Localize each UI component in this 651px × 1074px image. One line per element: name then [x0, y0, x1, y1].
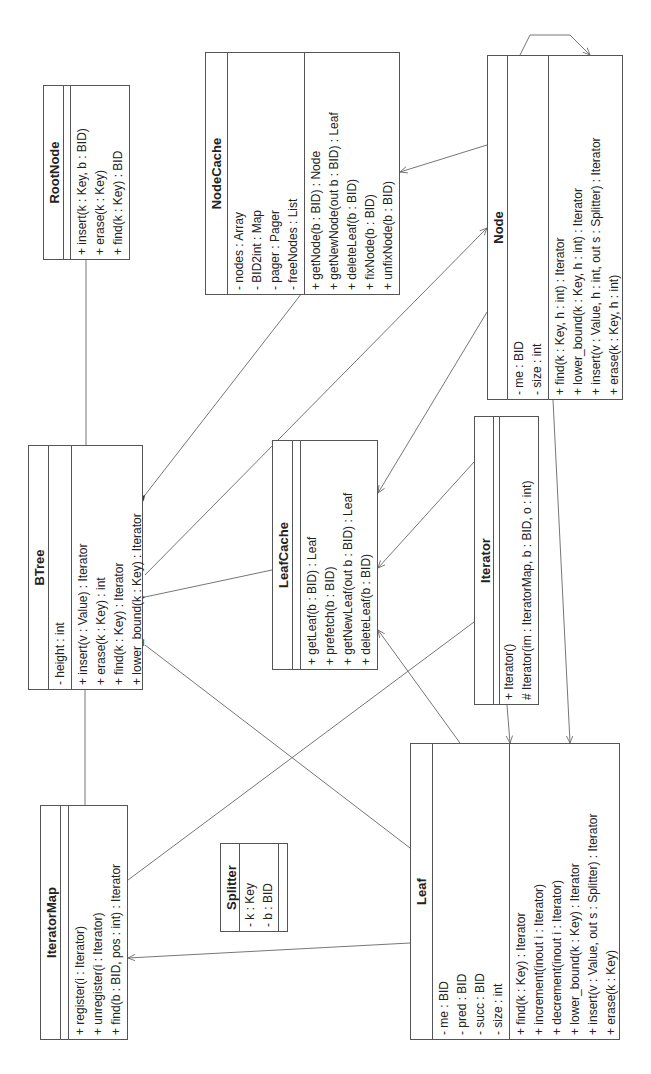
- link-node-leafcache: [378, 312, 487, 493]
- link-node-nodecache: [400, 145, 487, 172]
- attribute: - height : int: [51, 450, 69, 685]
- operation: + register(i : Iterator): [71, 810, 89, 1035]
- operation: + deleteLeaf(b : BID): [357, 445, 375, 665]
- link-node-self: [520, 35, 590, 55]
- attribute: - succ : BID: [471, 748, 489, 1035]
- attribute: - me : BID: [510, 60, 528, 395]
- attribute: - b : BID: [259, 848, 277, 927]
- class-name: RootNode: [44, 86, 64, 259]
- link-btree-leafcache: [145, 570, 272, 597]
- attribute: - nodes : Array: [230, 57, 248, 290]
- operations-compartment: + getLeaf(b : BID) : Leaf + prefetch(b :…: [301, 441, 377, 669]
- attributes-compartment: - me : BID - pred : BID - succ : BID - s…: [433, 744, 510, 1039]
- class-name: NodeCache: [206, 53, 228, 294]
- operation: + lower_bound(k : Key) : Iterator: [128, 450, 146, 685]
- operation: + erase(k : Key, h : int): [605, 60, 623, 395]
- operation: + fixNode(b : BID): [361, 57, 379, 290]
- class-btree: BTree - height : int + insert(v : Value)…: [28, 445, 143, 690]
- operation: + decrement(inout i : Iterator): [548, 748, 566, 1035]
- uml-class-diagram: RootNode + insert(k : Key, b : BID) + er…: [0, 0, 651, 1074]
- operations-compartment: + find(k : Key) : Iterator + increment(i…: [510, 744, 622, 1039]
- class-nodecache: NodeCache - nodes : Array - BID2int : Ma…: [205, 52, 400, 295]
- class-name: IteratorMap: [41, 806, 61, 1039]
- attribute: - me : BID: [435, 748, 453, 1035]
- link-iterator-leafcache: [378, 462, 474, 568]
- attribute: - pager : Pager: [266, 57, 284, 290]
- operation: + unregister(i : Iterator): [89, 810, 107, 1035]
- attribute: - size : int: [528, 60, 546, 395]
- operation: + prefetch(b : BID): [321, 445, 339, 665]
- link-leaf-leafcache: [378, 630, 460, 743]
- attributes-compartment: - me : BID - size : int: [508, 56, 549, 399]
- class-iterator: Iterator + Iterator() # Iterator(im : It…: [474, 416, 539, 705]
- link-leaf-iteratormap: [128, 943, 410, 958]
- operations-compartment: + insert(k : Key, b : BID) + erase(k : K…: [71, 86, 129, 259]
- class-name: LeafCache: [273, 441, 293, 669]
- operation: + getNode(b : BID) : Node: [307, 57, 325, 290]
- operation: + increment(inout i : Iterator): [530, 748, 548, 1035]
- operation: + getNewLeaf(out b : BID) : Leaf: [339, 445, 357, 665]
- operation: + deleteLeaf(b : BID): [343, 57, 361, 290]
- operation: + erase(k : Key) : int: [92, 450, 110, 685]
- operation: + find(k : Key) : BID: [109, 90, 127, 255]
- operation: + find(k : Key, h : int) : Iterator: [551, 60, 569, 395]
- link-btree-leaf: [145, 645, 410, 848]
- attributes-compartment: [293, 441, 301, 669]
- attribute: - BID2int : Map: [248, 57, 266, 290]
- class-name: Splitter: [221, 844, 240, 931]
- link-iterator-leaf: [507, 705, 510, 743]
- attributes-compartment: [61, 806, 69, 1039]
- operation: # Iterator(im : IteratorMap, b : BID, o …: [518, 421, 536, 700]
- attribute: - k : Key: [241, 848, 259, 927]
- class-name: Node: [488, 56, 508, 399]
- operation: + lower_bound(k : Key) : Iterator: [566, 748, 584, 1035]
- class-name: Iterator: [475, 417, 494, 704]
- operation: + erase(k : Key): [91, 90, 109, 255]
- class-leaf: Leaf - me : BID - pred : BID - succ : BI…: [410, 743, 620, 1040]
- operation: + Iterator(): [500, 421, 518, 700]
- operations-compartment: + Iterator() # Iterator(im : IteratorMap…: [500, 417, 538, 704]
- attribute: - pred : BID: [453, 748, 471, 1035]
- attribute: - size : int: [489, 748, 507, 1035]
- operation: + insert(v : Value, h : int, out s : Spl…: [587, 60, 605, 395]
- operation: + getLeaf(b : BID) : Leaf: [303, 445, 321, 665]
- operation: + erase(k : Key): [602, 748, 620, 1035]
- class-leafcache: LeafCache + getLeaf(b : BID) : Leaf + pr…: [272, 440, 378, 670]
- attributes-compartment: - nodes : Array - BID2int : Map - pager …: [228, 53, 305, 294]
- attribute: - freeNodes : List: [284, 57, 302, 290]
- operations-compartment: [279, 844, 287, 931]
- class-node: Node - me : BID - size : int + find(k : …: [487, 55, 623, 400]
- class-splitter: Splitter - k : Key - b : BID: [220, 843, 288, 932]
- operation: + insert(k : Key, b : BID): [73, 90, 91, 255]
- class-name: Leaf: [411, 744, 433, 1039]
- attributes-compartment: - height : int: [49, 446, 72, 689]
- operation: + insert(v : Value) : Iterator: [74, 450, 92, 685]
- operation: + insert(v : Value, out s : Splitter) : …: [584, 748, 602, 1035]
- attributes-compartment: [64, 86, 71, 259]
- operations-compartment: + insert(v : Value) : Iterator + erase(k…: [72, 446, 148, 689]
- operation: + find(k : Key) : Iterator: [110, 450, 128, 685]
- operation: + find(k : Key) : Iterator: [512, 748, 530, 1035]
- operation: + find(b : BID, pos : int) : Iterator: [107, 810, 125, 1035]
- class-name: BTree: [29, 446, 49, 689]
- class-rootnode: RootNode + insert(k : Key, b : BID) + er…: [43, 85, 130, 260]
- operations-compartment: + register(i : Iterator) + unregister(i …: [69, 806, 127, 1039]
- operations-compartment: + getNode(b : BID) : Node + getNewNode(o…: [305, 53, 399, 294]
- operation: + lower_bound(k : Key, h : int) : Iterat…: [569, 60, 587, 395]
- attributes-compartment: - k : Key - b : BID: [240, 844, 279, 931]
- operation: + unfixNode(b : BID): [379, 57, 397, 290]
- operations-compartment: + find(k : Key, h : int) : Iterator + lo…: [549, 56, 625, 399]
- operation: + getNewNode(out b : BID) : Leaf: [325, 57, 343, 290]
- class-iteratormap: IteratorMap + register(i : Iterator) + u…: [40, 805, 128, 1040]
- link-node-leaf: [553, 400, 570, 743]
